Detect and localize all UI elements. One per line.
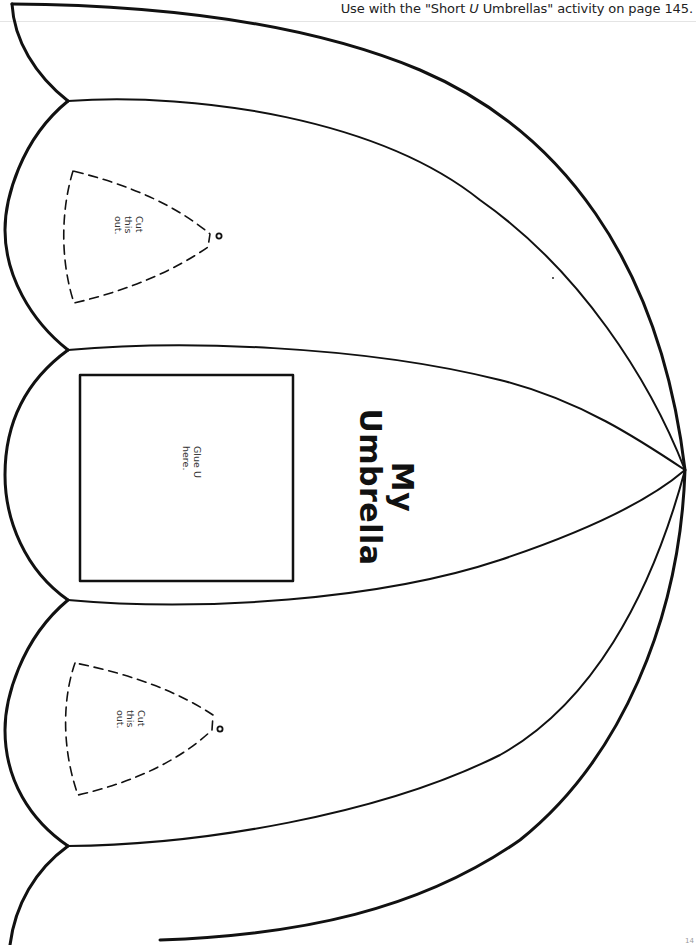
- page-number-fragment: 14: [685, 937, 694, 945]
- glue-line-1: Glue U: [192, 446, 203, 496]
- hole-marker-upper: [216, 233, 221, 238]
- glue-line-2: here.: [181, 446, 192, 496]
- outer-canopy-bottom-outline: [160, 470, 685, 940]
- cut-line-3: out.: [113, 216, 124, 256]
- cutout-instruction-lower: Cut this out.: [110, 710, 146, 750]
- glue-instruction: Glue U here.: [176, 446, 202, 496]
- cut-line-2: this: [123, 216, 134, 256]
- scallop-middle: [5, 350, 68, 600]
- top-tip-edge: [12, 4, 68, 101]
- cut-line-3: out.: [115, 710, 126, 750]
- worksheet-page: Use with the "Short U Umbrellas" activit…: [0, 0, 696, 945]
- bottom-tip-edge: [10, 846, 68, 945]
- cutout-instruction-upper: Cut this out.: [108, 216, 144, 256]
- cut-line-1: Cut: [134, 216, 145, 256]
- speck: [552, 277, 554, 279]
- scallop-upper: [5, 101, 68, 350]
- umbrella-title: My Umbrella: [348, 387, 418, 587]
- cut-line-2: this: [125, 710, 136, 750]
- title-line-my: My: [386, 387, 418, 587]
- scallop-lower: [5, 600, 68, 846]
- hole-marker-lower: [217, 726, 222, 731]
- cut-line-1: Cut: [136, 710, 147, 750]
- title-line-umbrella: Umbrella: [354, 387, 386, 587]
